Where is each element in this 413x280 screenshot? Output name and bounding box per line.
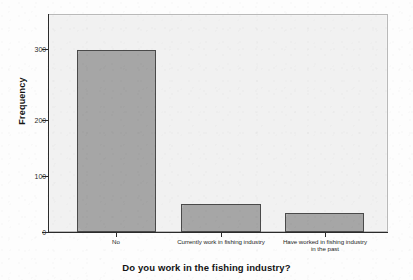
x-tick-mark-3	[325, 232, 326, 237]
x-axis-line	[48, 232, 388, 233]
bar-currently-work	[181, 204, 261, 232]
x-axis-title: Do you work in the fishing industry?	[0, 262, 413, 273]
y-axis-title: Frequency	[17, 41, 27, 161]
y-axis-line	[48, 14, 49, 232]
y-tick-label-100: 100	[20, 173, 46, 180]
x-tick-mark-1	[116, 232, 117, 237]
bar-no	[77, 50, 156, 232]
bar-chart-figure: 0 100 200 300 No Currently work in fishi…	[0, 0, 413, 280]
x-category-label-currently-work: Currently work in fishing industry	[162, 238, 280, 245]
x-tick-mark-2	[221, 232, 222, 237]
bar-worked-in-past	[285, 213, 364, 232]
y-tick-label-0: 0	[20, 229, 46, 236]
x-category-label-worked-in-past: Have worked in fishing industry in the p…	[268, 238, 382, 252]
x-category-label-no: No	[76, 238, 156, 245]
